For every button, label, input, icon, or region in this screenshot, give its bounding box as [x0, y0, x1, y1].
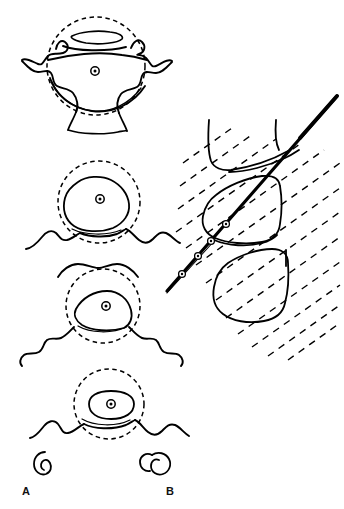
vertebra-3-center-marker — [102, 302, 110, 310]
vertebra-upper-lateral — [208, 120, 299, 172]
vertebra-3-superior-outline — [58, 264, 138, 277]
anatomical-line-drawing — [0, 0, 344, 509]
vertebra-4-transverse-left — [30, 421, 84, 438]
vertebra-2-lamina-left — [26, 231, 80, 249]
beam-line — [216, 212, 340, 300]
vertebra-1-inferior-process-left — [22, 61, 77, 112]
needle-trajectory — [167, 96, 337, 293]
vertebra-2-body-outline — [64, 177, 129, 231]
needle-depth-marker — [195, 253, 202, 260]
beam-line — [226, 237, 340, 318]
vertebra-3-body-outline — [75, 291, 132, 330]
vertebra-upper-posterior-edge — [276, 120, 279, 150]
beam-line — [183, 128, 232, 163]
vertebra-4-inner-contour — [82, 419, 130, 425]
vertebra-1-tail-right — [119, 113, 127, 131]
beam-line — [178, 139, 276, 209]
vertebra-3-group — [20, 264, 182, 366]
vertebra-4-transverse-right — [135, 420, 189, 436]
figure-root: A B — [0, 0, 344, 509]
vertebra-2-center-marker — [96, 195, 104, 203]
panel-label-a: A — [22, 486, 30, 497]
needle-depth-marker — [223, 221, 230, 228]
vertebra-2-lamina-right — [126, 229, 180, 243]
needle-depth-marker — [208, 238, 215, 245]
needle-tip-hairline — [167, 240, 215, 293]
vertebra-1-arch-line — [63, 46, 126, 50]
vertebra-4-center-marker — [107, 400, 115, 408]
beam-line — [288, 323, 340, 360]
vertebra-lower-outline — [213, 249, 288, 322]
vertebra-1-tail-base — [68, 130, 127, 134]
vertebra-1-inferior-arch — [50, 78, 145, 111]
needle-hub — [300, 96, 337, 138]
vertebra-1-superior-outline — [22, 41, 68, 64]
panel-b-group — [167, 96, 340, 360]
vertebra-1-center-marker — [91, 67, 99, 75]
beam-line — [206, 188, 340, 283]
vertebra-1-inferior-arch-inner — [52, 82, 141, 111]
vertebra-1-body-outline — [71, 31, 122, 44]
vertebra-3-process-left — [20, 327, 74, 366]
needle-depth-marker — [179, 271, 186, 278]
panel-label-b: B — [166, 486, 174, 497]
panel-a-group — [20, 17, 189, 475]
vertebra-2-group — [26, 161, 180, 249]
vertebra-1-group — [22, 17, 172, 134]
vertebra-1-tail-left — [68, 112, 76, 130]
vertebra-1-superior-outline-right — [131, 40, 172, 66]
vertebra-4-hook-right — [140, 454, 152, 471]
vertebra-4-hook-left — [34, 452, 51, 474]
vertebra-lower-lateral — [213, 249, 288, 322]
vertebra-4-group — [30, 369, 189, 475]
vertebra-3-process-right — [129, 327, 183, 366]
vertebra-1-transverse-line — [48, 53, 147, 60]
beam-line — [180, 134, 253, 186]
vertebra-4-hook-right-outer — [151, 453, 170, 475]
beam-line — [252, 285, 340, 347]
